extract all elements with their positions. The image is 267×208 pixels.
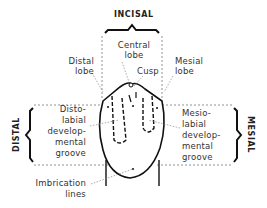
lobe-dot — [132, 105, 134, 107]
label-central-lobe: Central lobe — [110, 40, 158, 60]
label-line: lobe — [110, 50, 158, 60]
label-cusp: Cusp — [137, 66, 159, 76]
label-incisal: INCISAL — [114, 10, 154, 19]
distolabial-groove — [112, 96, 126, 143]
label-line: lobe — [175, 66, 203, 76]
label-mesiolabial-groove: Mesio- labial develop- mental groove — [182, 108, 221, 163]
label-line: lobe — [58, 66, 94, 76]
leader-mesial-lobe — [164, 76, 173, 92]
label-line: Distal — [58, 56, 94, 66]
label-line: labial — [182, 119, 221, 130]
mesiolabial-groove — [143, 96, 154, 132]
lobe-dot — [107, 106, 109, 108]
label-line: Mesio- — [182, 108, 221, 119]
label-line: Central — [110, 40, 158, 50]
distal-brace — [26, 108, 33, 162]
label-line: develop- — [182, 130, 221, 141]
label-mesial: MESIAL — [246, 115, 255, 155]
imbrication-dot — [132, 168, 134, 170]
label-line: Imbrication — [30, 178, 86, 189]
central-lobe-line — [129, 95, 131, 102]
leader-central-lobe — [122, 62, 129, 82]
label-distal: DISTAL — [12, 115, 21, 155]
incisal-brace — [105, 25, 159, 33]
label-line: mental — [40, 137, 86, 148]
label-line: groove — [182, 152, 221, 163]
label-mesial-lobe: Mesial lobe — [175, 56, 203, 76]
label-line: mental — [182, 141, 221, 152]
mesial-brace — [234, 108, 241, 162]
label-line: lines — [30, 189, 86, 200]
leader-distolabial — [90, 120, 119, 126]
label-distal-lobe: Distal lobe — [58, 56, 94, 76]
label-line: Disto- — [40, 104, 86, 115]
lobe-dot — [156, 107, 158, 109]
leader-imbrication — [91, 169, 133, 184]
label-line: Mesial — [175, 56, 203, 66]
cusp-tip — [129, 83, 133, 87]
crown-outline — [100, 83, 165, 178]
label-line: groove — [40, 148, 86, 159]
label-distolabial-groove: Disto- labial develop- mental groove — [40, 104, 86, 159]
label-line: labial — [40, 115, 86, 126]
label-line: develop- — [40, 126, 86, 137]
label-imbrication-lines: Imbrication lines — [30, 178, 86, 200]
